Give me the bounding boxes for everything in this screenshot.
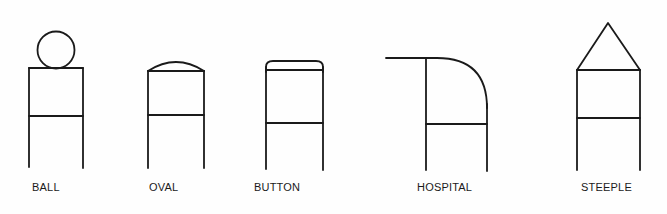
post-cap-diagram: BALL OVAL BUTTON HOSPITAL STEEPLE	[0, 0, 667, 214]
oval-cap-shape	[148, 62, 204, 71]
button-label: BUTTON	[254, 181, 300, 192]
ball-label: BALL	[32, 181, 60, 192]
ball-post-figure	[29, 32, 83, 169]
steeple-label: STEEPLE	[581, 181, 632, 192]
ball-cap-shape	[38, 32, 75, 69]
steeple-post-figure	[577, 23, 640, 170]
hospital-label: HOSPITAL	[417, 181, 472, 192]
hospital-cap-shape	[386, 58, 487, 108]
oval-label: OVAL	[149, 181, 178, 192]
steeple-cap-shape	[577, 23, 640, 70]
diagram-drawing	[0, 0, 667, 214]
button-post-figure	[266, 61, 323, 170]
oval-post-figure	[148, 62, 204, 168]
hospital-post-figure	[386, 58, 487, 171]
